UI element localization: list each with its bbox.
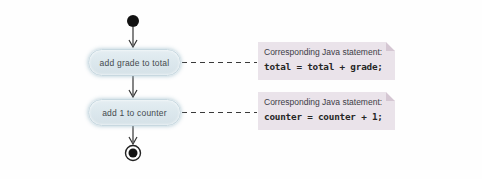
diagram-connectors [0,0,482,179]
action-state-label: add grade to total [100,58,170,68]
note-caption: Corresponding Java statement: [264,96,389,109]
activity-diagram: add grade to total add 1 to counter Corr… [0,0,482,179]
action-state-label: add 1 to counter [102,108,167,118]
final-node-inner-dot [129,149,138,158]
note-java-code: counter = counter + 1; [264,109,389,124]
action-state-add-grade-to-total: add grade to total [88,49,181,76]
action-state-add-1-to-counter: add 1 to counter [88,99,181,126]
uml-note-total-statement: Corresponding Java statement: total = to… [258,42,395,80]
uml-note-counter-statement: Corresponding Java statement: counter = … [258,92,395,130]
note-caption: Corresponding Java statement: [264,46,389,59]
note-java-code: total = total + grade; [264,59,389,74]
initial-node [127,15,139,27]
